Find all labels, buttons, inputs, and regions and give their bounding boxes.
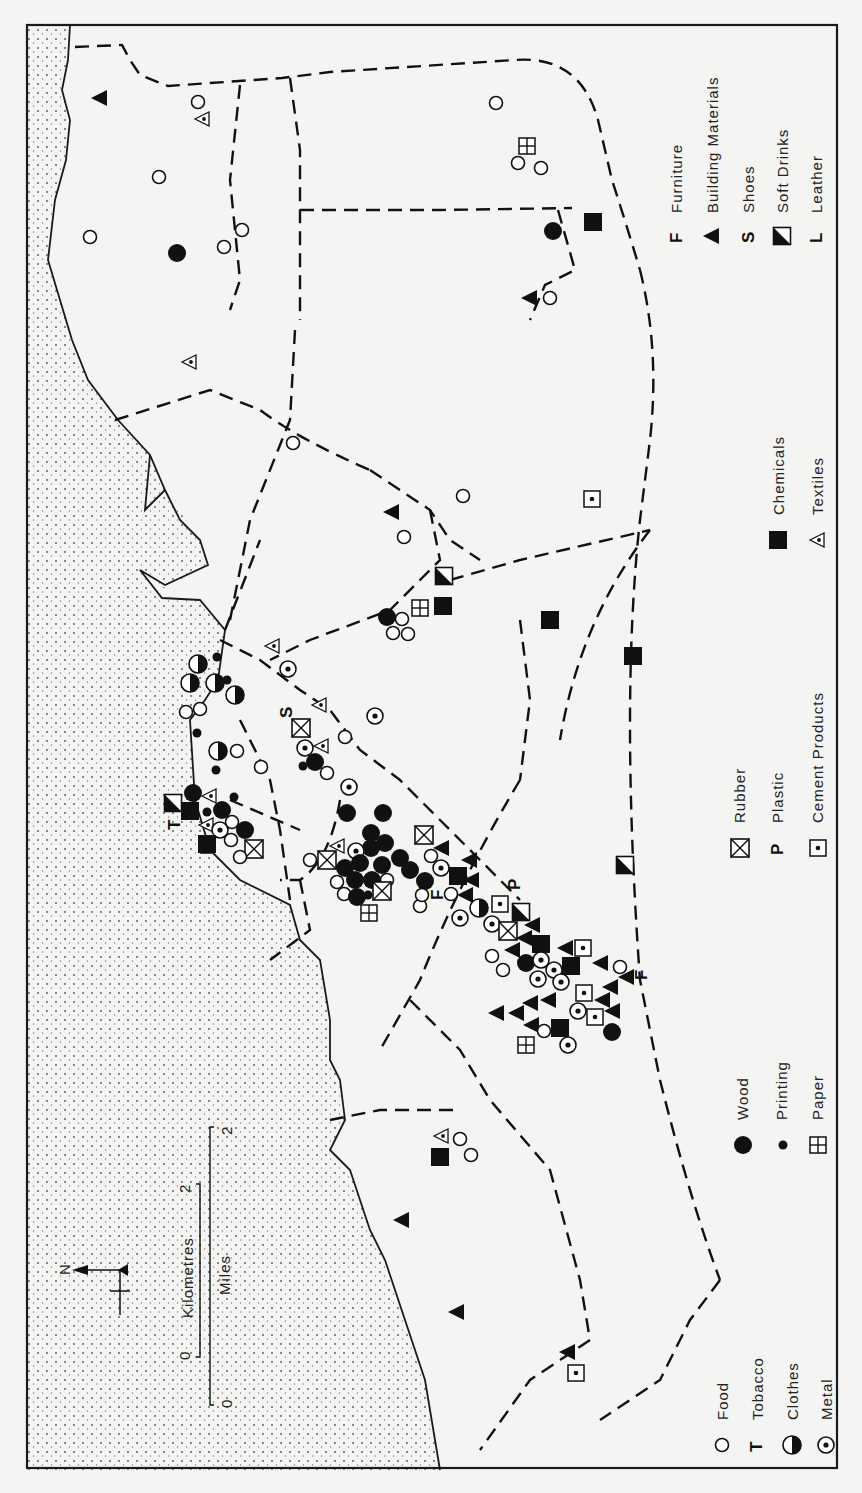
legend-item-leather: LLeather xyxy=(807,155,826,243)
svg-text:F: F xyxy=(632,970,651,980)
svg-text:Metal: Metal xyxy=(818,1378,835,1420)
industrial-location-map: S F P F T L N 0 2 Kilometres 0 2 Miles F… xyxy=(0,0,862,1493)
svg-text:F: F xyxy=(428,890,447,900)
north-label: N xyxy=(56,1263,73,1275)
legend-item-rubber: Rubber xyxy=(731,768,749,857)
svg-text:S: S xyxy=(277,707,296,718)
svg-text:2: 2 xyxy=(176,1184,193,1193)
legend-item-metal: Metal xyxy=(818,1378,835,1453)
legend-item-furniture: FFurniture xyxy=(667,144,686,243)
svg-text:Printing: Printing xyxy=(773,1061,790,1120)
svg-text:L: L xyxy=(197,845,216,855)
miles-label: Miles xyxy=(216,1255,233,1295)
svg-text:Tobacco: Tobacco xyxy=(749,1357,766,1420)
legend-item-plastic: PPlastic xyxy=(768,772,787,855)
svg-text:S: S xyxy=(739,232,758,243)
legend-item-food: Food xyxy=(714,1382,731,1452)
svg-text:Furniture: Furniture xyxy=(668,144,685,213)
legend-item-paper: Paper xyxy=(809,1075,826,1153)
svg-text:Plastic: Plastic xyxy=(769,772,786,823)
legend-item-building: Building Materials xyxy=(703,77,721,244)
svg-text:Soft Drinks: Soft Drinks xyxy=(774,129,791,213)
svg-text:F: F xyxy=(667,233,686,243)
svg-text:2: 2 xyxy=(218,1126,235,1135)
svg-text:Leather: Leather xyxy=(808,155,825,213)
legend-item-cement: Cement Products xyxy=(809,692,826,856)
svg-text:Food: Food xyxy=(714,1382,731,1420)
legend-item-shoes: SShoes xyxy=(739,165,758,243)
svg-text:P: P xyxy=(768,844,787,855)
svg-text:P: P xyxy=(505,879,524,890)
svg-text:Rubber: Rubber xyxy=(731,768,748,823)
svg-text:T: T xyxy=(165,819,184,830)
legend-item-softdrinks: Soft Drinks xyxy=(774,129,792,245)
legend-item-printing: Printing xyxy=(773,1061,790,1149)
svg-text:Cement Products: Cement Products xyxy=(809,692,826,823)
svg-text:Textiles: Textiles xyxy=(809,457,826,515)
legend-item-chemicals: Chemicals xyxy=(769,436,787,549)
svg-text:0: 0 xyxy=(218,1399,235,1408)
svg-text:L: L xyxy=(807,233,826,243)
legend-item-wood: Wood xyxy=(734,1077,752,1154)
kilometres-label: Kilometres xyxy=(179,1237,196,1318)
svg-text:Building Materials: Building Materials xyxy=(704,77,721,213)
legend-item-textiles: Textiles xyxy=(809,457,826,547)
svg-text:0: 0 xyxy=(176,1351,193,1360)
legend-item-tobacco: TTobacco xyxy=(747,1357,766,1452)
svg-text:Paper: Paper xyxy=(809,1075,826,1120)
svg-text:Clothes: Clothes xyxy=(784,1362,801,1420)
legend-item-clothes: Clothes xyxy=(783,1362,801,1454)
svg-text:T: T xyxy=(747,1441,766,1452)
svg-text:Wood: Wood xyxy=(734,1077,751,1120)
svg-text:Chemicals: Chemicals xyxy=(770,436,787,515)
svg-text:Shoes: Shoes xyxy=(740,165,757,213)
legend: Food TTobacco Clothes Metal Wood Printin… xyxy=(667,77,835,1454)
